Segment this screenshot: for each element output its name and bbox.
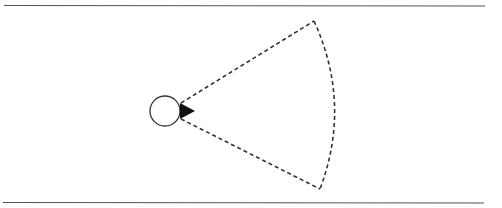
heading-arrow-icon bbox=[180, 103, 195, 119]
sector-upper-edge bbox=[181, 21, 314, 103]
diagram-canvas bbox=[0, 0, 502, 208]
sector-arc bbox=[314, 21, 335, 189]
diagram-svg bbox=[0, 0, 502, 208]
bottom-boundary-line bbox=[3, 203, 484, 204]
top-boundary-line bbox=[4, 6, 485, 7]
field-of-view-sector bbox=[181, 21, 335, 189]
agent-circle bbox=[150, 96, 180, 126]
sector-lower-edge bbox=[181, 119, 320, 189]
